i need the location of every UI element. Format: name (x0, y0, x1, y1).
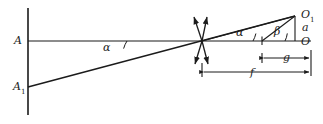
label-point-o: O (301, 36, 310, 47)
label-height-a: a (302, 22, 309, 33)
label-point-a1-base: A (13, 80, 21, 93)
label-point-o1-base: O (301, 8, 310, 21)
label-point-a: A (14, 35, 22, 46)
label-point-o1-subscript: 1 (310, 15, 315, 24)
dimension-line-f (202, 63, 309, 77)
ray-from-node-to-O1 (202, 16, 295, 41)
label-point-a1: A1 (13, 81, 26, 94)
angle-arc-alpha-right (253, 34, 256, 42)
label-point-a1-subscript: 1 (21, 87, 26, 96)
label-angle-beta: β (274, 26, 280, 37)
angle-arc-beta (285, 33, 287, 41)
optics-ray-diagram: A A1 O1 a O α α β f g (0, 0, 323, 124)
label-dimension-f: f (250, 67, 254, 78)
label-angle-alpha-right: α (236, 27, 243, 38)
label-angle-alpha-left: α (103, 42, 110, 53)
label-dimension-g: g (283, 52, 290, 63)
diagram-canvas (0, 0, 323, 124)
angle-arc-alpha-left (124, 41, 127, 49)
